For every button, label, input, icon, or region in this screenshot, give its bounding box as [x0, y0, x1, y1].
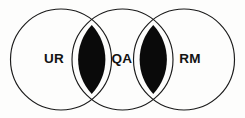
venn-label-qa: QA [112, 51, 133, 66]
venn-label-rm: RM [179, 51, 201, 66]
venn-diagram: UR QA RM [0, 0, 245, 118]
venn-label-ur: UR [44, 51, 64, 66]
venn-diagram-canvas: UR QA RM [0, 0, 245, 118]
